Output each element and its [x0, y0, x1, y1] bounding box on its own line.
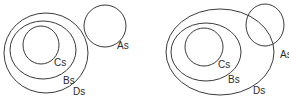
- set-bs: [171, 23, 241, 81]
- label-cs: Cs: [218, 59, 230, 70]
- label-as: As: [117, 40, 129, 51]
- venn-diagrams: Ds Bs Cs As Ds Bs Cs As: [0, 0, 289, 111]
- set-ds: [166, 9, 274, 95]
- left-venn: Ds Bs Cs As: [4, 5, 129, 97]
- set-bs: [10, 21, 76, 79]
- set-as: [246, 4, 284, 46]
- label-bs: Bs: [63, 75, 75, 86]
- label-as: As: [280, 49, 289, 60]
- label-cs: Cs: [54, 57, 66, 68]
- right-venn: Ds Bs Cs As: [166, 4, 289, 96]
- label-bs: Bs: [228, 74, 240, 85]
- label-ds: Ds: [253, 85, 265, 96]
- label-ds: Ds: [73, 86, 85, 97]
